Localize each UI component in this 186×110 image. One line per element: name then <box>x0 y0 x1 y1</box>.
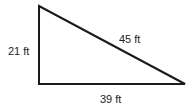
bottom-side-label: 39 ft <box>100 93 121 105</box>
hypotenuse-label: 45 ft <box>119 33 140 45</box>
right-triangle <box>39 6 185 84</box>
left-side-label: 21 ft <box>8 45 29 57</box>
